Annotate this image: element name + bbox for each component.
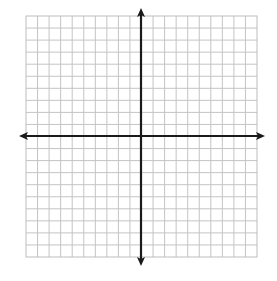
axes bbox=[19, 8, 265, 266]
coordinate-plane-svg bbox=[0, 0, 277, 281]
